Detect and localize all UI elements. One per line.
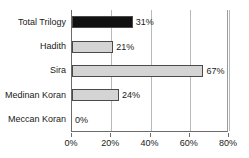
axis-tick-label: 0%: [64, 139, 77, 148]
axis-tick-label: 40%: [140, 139, 158, 148]
axis-tick-mark: [189, 133, 190, 137]
axis-tick-mark: [110, 133, 111, 137]
bar-row: 0%: [72, 108, 227, 132]
bar-value-label: 67%: [206, 66, 224, 75]
category-label: Total Trilogy: [18, 10, 66, 34]
bar-row: 31%: [72, 10, 227, 34]
plot-area: 31%21%67%24%0%: [71, 10, 228, 132]
bar[interactable]: [72, 16, 133, 28]
axis-tick-label: 80%: [219, 139, 237, 148]
bar-chart: Total TrilogyHadithSiraMedinan KoranMecc…: [0, 0, 249, 158]
value-axis: 0%20%40%60%80%: [71, 133, 228, 155]
bar-row: 24%: [72, 83, 227, 107]
axis-tick-label: 20%: [101, 139, 119, 148]
axis-tick-label: 60%: [180, 139, 198, 148]
category-label: Medinan Koran: [5, 83, 66, 107]
bar-row: 21%: [72, 34, 227, 58]
category-axis: Total TrilogyHadithSiraMedinan KoranMecc…: [0, 10, 68, 132]
gridline: [229, 10, 230, 131]
axis-tick-mark: [71, 133, 72, 137]
category-label: Sira: [50, 59, 66, 83]
category-label: Meccan Koran: [8, 108, 66, 132]
bar[interactable]: [72, 41, 113, 53]
bar-rows: 31%21%67%24%0%: [72, 10, 227, 131]
bar[interactable]: [72, 65, 203, 77]
bar[interactable]: [72, 89, 119, 101]
axis-tick-mark: [228, 133, 229, 137]
bar-value-label: 24%: [122, 91, 140, 100]
bar-value-label: 0%: [75, 115, 88, 124]
bar-value-label: 21%: [116, 42, 134, 51]
axis-tick-mark: [150, 133, 151, 137]
category-label: Hadith: [40, 34, 66, 58]
bar-value-label: 31%: [136, 18, 154, 27]
bar-row: 67%: [72, 59, 227, 83]
